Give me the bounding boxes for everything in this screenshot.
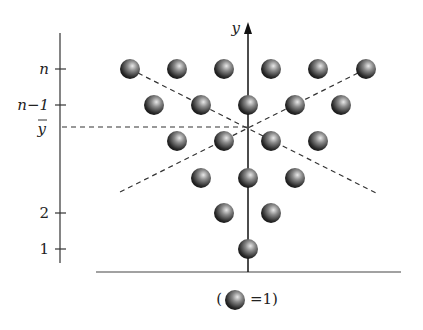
tick-label-n-minus-1: n−1 bbox=[17, 96, 49, 114]
ball-icon bbox=[167, 131, 187, 151]
tick-label-ybar: y bbox=[37, 120, 47, 138]
ball-icon bbox=[238, 168, 258, 188]
legend-text: =1) bbox=[250, 290, 278, 308]
legend-open-paren: ( bbox=[216, 290, 222, 308]
y-axis-label: y bbox=[231, 19, 241, 37]
tick-label-n: n bbox=[39, 60, 49, 78]
ball-icon bbox=[356, 59, 376, 79]
ball-icon bbox=[191, 168, 211, 188]
ball-icon bbox=[261, 59, 281, 79]
ball-icon bbox=[120, 59, 140, 79]
tick-label-1: 1 bbox=[39, 240, 49, 258]
ball-icon bbox=[238, 95, 258, 115]
ball-icon bbox=[261, 203, 281, 223]
y-axis-arrow-icon bbox=[244, 22, 252, 34]
tick-label-2: 2 bbox=[39, 204, 49, 222]
ball-icon bbox=[214, 59, 234, 79]
ball-icon bbox=[144, 95, 164, 115]
ball-icon bbox=[308, 131, 328, 151]
ball-icon bbox=[285, 168, 305, 188]
ball-icon bbox=[214, 203, 234, 223]
legend-ball-icon bbox=[225, 290, 245, 310]
dashed-guides bbox=[62, 69, 376, 193]
ball-icon bbox=[285, 95, 305, 115]
ball-icon bbox=[167, 59, 187, 79]
ball-icon bbox=[331, 95, 351, 115]
triangle-balls-diagram: n n−1 y 2 1 y ( =1) bbox=[0, 0, 423, 330]
ball-icon bbox=[308, 59, 328, 79]
ball-icon bbox=[261, 131, 281, 151]
ball-icon bbox=[214, 131, 234, 151]
ball-icon bbox=[191, 95, 211, 115]
ball-icon bbox=[238, 239, 258, 259]
